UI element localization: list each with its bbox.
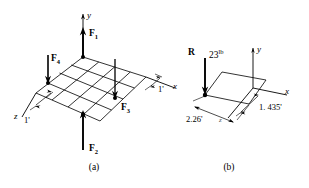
dim-label-distance-x: 1. 435' [259, 103, 282, 112]
z-axis-a [22, 93, 36, 117]
panel-caption-b: (b) [209, 163, 249, 173]
dim-226-ext1 [193, 96, 205, 101]
force-label-F2: F2 [89, 144, 98, 155]
dim-x-ext1-a [145, 85, 152, 90]
x-axis-label-a: x [173, 82, 177, 91]
panel-caption-a: (a) [74, 163, 114, 173]
figure-container: y x z F1 F2 F3 F4 1' 1' (a) y x z R 23lb… [0, 0, 309, 188]
dim-1435-line [241, 96, 258, 112]
force-F1-sub: 1 [95, 33, 98, 40]
figure-drawing [0, 0, 309, 188]
force-F2-sub: 2 [95, 148, 98, 155]
panel-a-drawing [22, 14, 175, 150]
force-F1-point [81, 55, 85, 59]
force-F4-sub: 4 [57, 58, 60, 65]
dim-1435-arrow-low [240, 111, 245, 114]
z-axis-label-a: z [14, 112, 18, 121]
dim-z-ext2-a [46, 92, 53, 98]
force-F4-point [46, 81, 50, 85]
y-axis-label-b: y [257, 45, 261, 54]
force-label-F4: F4 [51, 54, 60, 65]
z-axis-label-b: z [219, 117, 222, 124]
force-label-R: R [188, 48, 195, 58]
y-axis-label-a: y [87, 11, 91, 20]
force-F2-point [81, 112, 85, 116]
dim-label-grid-spacing-x: 1' [158, 85, 164, 94]
x-axis-label-b: x [285, 87, 289, 96]
dim-label-distance-z: 2.26' [186, 115, 202, 124]
force-F3-point [113, 96, 117, 100]
force-R-unit: lb [219, 48, 224, 55]
dim-z-ext1-a [30, 106, 36, 110]
force-R-magnitude-value: 23 [209, 50, 219, 60]
force-label-F3: F3 [121, 103, 130, 114]
dim-z-arrow-right-a [46, 90, 52, 93]
plate-b [205, 72, 266, 104]
force-magnitude-R: 23lb [209, 49, 224, 61]
force-F3-sub: 3 [127, 107, 130, 114]
dim-label-grid-spacing-z: 1' [24, 116, 30, 125]
force-label-F1: F1 [89, 29, 98, 40]
